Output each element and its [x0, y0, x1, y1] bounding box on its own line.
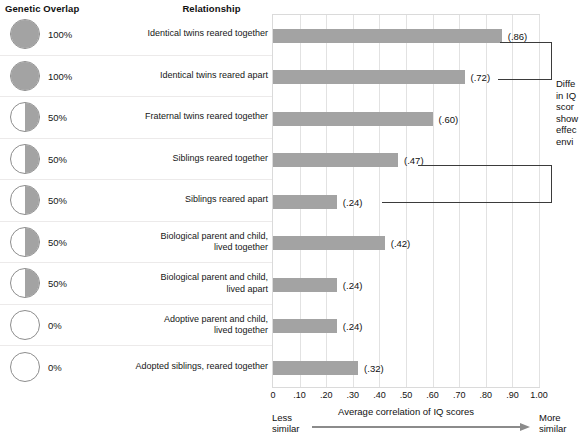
axis-tick-label: .80 [480, 390, 493, 400]
bracket-line [382, 202, 551, 203]
similarity-arrow [312, 423, 530, 431]
axis-tick-label: .70 [453, 390, 466, 400]
bracket-line [551, 165, 552, 203]
axis-tick-label: .20 [320, 390, 333, 400]
x-axis-title: Average correlation of IQ scores [272, 406, 540, 417]
bracket-line [418, 165, 551, 166]
axis-tick-label: .10 [293, 390, 306, 400]
arrow-head-icon [520, 423, 530, 431]
axis-tick-label: .30 [347, 390, 360, 400]
axis-tick-label: 0 [270, 390, 275, 400]
x-axis-ticks: 0.10.20.30.40.50.60.70.80.901.00 [272, 390, 540, 404]
axis-tick-label: .50 [400, 390, 413, 400]
axis-tick-label: 1.00 [530, 390, 548, 400]
axis-tick-label: .40 [373, 390, 386, 400]
axis-tick-label: .60 [426, 390, 439, 400]
axis-tick-label: .90 [506, 390, 519, 400]
axis-endpoint-more-similar: More similar [539, 412, 566, 434]
axis-endpoint-less-similar: Less similar [272, 412, 299, 434]
arrow-line [312, 426, 521, 428]
annotation-text: Diffe in IQ scor show effec envi [556, 78, 583, 147]
